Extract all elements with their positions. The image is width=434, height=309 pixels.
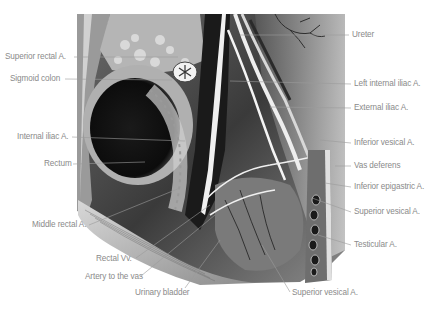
label-testicular-a: Testicular A.: [354, 240, 397, 250]
label-left-internal-iliac-a: Left internal iliac A.: [354, 79, 421, 89]
anatomy-illustration: [0, 0, 434, 309]
label-rectal-vv: Rectal Vv.: [96, 254, 132, 264]
label-artery-to-the-vas: Artery to the vas: [85, 272, 143, 282]
label-superior-vesical-a-bottom: Superior vesical A.: [292, 288, 358, 298]
label-middle-rectal-a: Middle rectal A.: [32, 220, 86, 230]
label-ureter: Ureter: [352, 30, 374, 40]
label-vas-deferens: Vas deferens: [354, 161, 400, 171]
label-external-iliac-a: External iliac A.: [354, 103, 408, 113]
illustration-body: [77, 14, 345, 285]
label-superior-rectal-a: Superior rectal A.: [5, 52, 66, 62]
label-inferior-epigastric-a: Inferior epigastric A.: [354, 182, 424, 192]
label-internal-iliac-a: Internal iliac A.: [17, 132, 69, 142]
label-urinary-bladder: Urinary bladder: [135, 288, 189, 298]
label-sigmoid-colon: Sigmoid colon: [10, 74, 60, 84]
label-inferior-vesical-a: Inferior vesical A.: [354, 138, 414, 148]
label-rectum: Rectum: [44, 159, 72, 169]
label-superior-vesical-a-right: Superior vesical A.: [354, 207, 420, 217]
